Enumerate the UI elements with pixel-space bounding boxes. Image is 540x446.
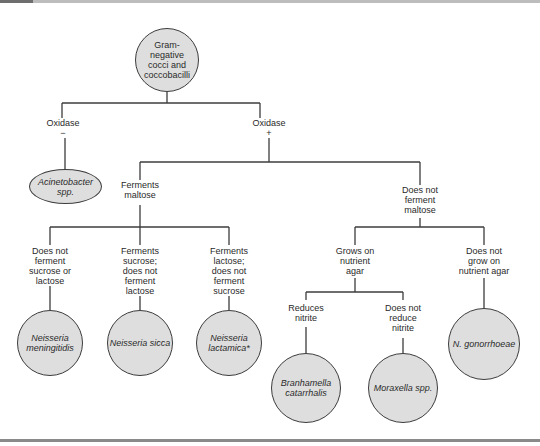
root-label: Gram- negative cocci and coccobacilli — [144, 40, 190, 80]
no-sucrose-lactose-label: Does not ferment sucrose or lactose — [28, 246, 72, 286]
lactamica-label: Neisseria lactamica* — [208, 333, 250, 353]
acinetobacter-node: Acinetobacter spp. — [29, 169, 102, 204]
no-reduce-nitrite-label: Does not reduce nitrite — [384, 303, 422, 333]
no-grow-nutrient-label: Does not grow on nutrient agar — [458, 246, 511, 276]
ferments-maltose-label: Ferments maltose — [120, 180, 160, 200]
lactamica-node: Neisseria lactamica* — [196, 310, 262, 376]
moraxella-node: Moraxella spp. — [368, 353, 438, 423]
branhamella-node: Branhamella catarrhalis — [271, 353, 341, 423]
grows-nutrient-label: Grows on nutrient agar — [335, 246, 376, 276]
sicca-node: Neisseria sicca — [107, 310, 173, 376]
connector-lines — [0, 0, 540, 446]
sucrose-no-lactose-label: Ferments sucrose; does not ferment lacto… — [120, 246, 160, 296]
gonorrhoeae-node: N. gonorrhoeae — [448, 308, 520, 380]
oxidase-negative-label: Oxidase − — [45, 118, 80, 138]
meningitidis-node: Neisseria meningitidis — [17, 310, 83, 376]
reduces-nitrite-label: Reduces nitrite — [287, 303, 325, 323]
no-maltose-label: Does not ferment maltose — [401, 185, 439, 215]
meningitidis-label: Neisseria meningitidis — [26, 333, 74, 353]
oxidase-positive-label: Oxidase + — [251, 118, 286, 138]
sicca-label: Neisseria sicca — [110, 338, 171, 348]
acinetobacter-label: Acinetobacter spp. — [38, 177, 93, 197]
branhamella-label: Branhamella catarrhalis — [281, 378, 332, 398]
lactose-no-sucrose-label: Ferments lactose; does not ferment sucro… — [209, 246, 249, 296]
root-node: Gram- negative cocci and coccobacilli — [135, 28, 199, 92]
moraxella-label: Moraxella spp. — [374, 383, 433, 393]
gonorrhoeae-label: N. gonorrhoeae — [453, 339, 516, 349]
